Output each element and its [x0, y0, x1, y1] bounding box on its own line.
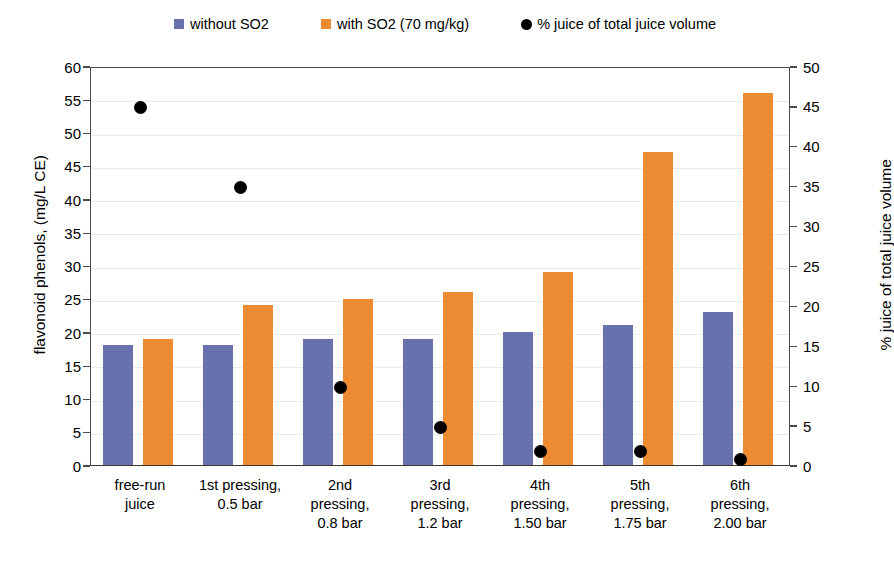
bar-without-so2[interactable] — [203, 345, 233, 465]
y-axis-left-tick — [83, 199, 90, 200]
y-axis-right-tick — [790, 346, 797, 347]
y-axis-right-tick — [790, 266, 797, 267]
bar-group — [591, 68, 691, 465]
y-axis-left-tick-label: 10 — [64, 392, 81, 407]
legend-item-without-so2[interactable]: without SO2 — [174, 17, 269, 32]
y-axis-right-tick-label: 20 — [803, 299, 820, 314]
y-axis-left-title: flavonoid phenols, (mg/L CE) — [32, 75, 48, 435]
bar-with-so2[interactable] — [343, 299, 373, 465]
bar-with-so2[interactable] — [643, 152, 673, 465]
y-axis-right-tick-label: 50 — [803, 60, 820, 75]
circle-marker-icon — [521, 19, 532, 30]
legend-item-with-so2[interactable]: with SO2 (70 mg/kg) — [321, 17, 469, 32]
y-axis-left-tick — [83, 133, 90, 134]
y-axis-left-tick-label: 5 — [73, 425, 81, 440]
bar-without-so2[interactable] — [703, 312, 733, 465]
y-axis-left-tick — [83, 332, 90, 333]
scatter-point-percent-juice[interactable] — [434, 421, 447, 434]
scatter-point-percent-juice[interactable] — [234, 181, 247, 194]
y-axis-left-tick-label: 0 — [73, 459, 81, 474]
y-axis-left-tick-label: 30 — [64, 259, 81, 274]
scatter-point-percent-juice[interactable] — [334, 381, 347, 394]
y-axis-left-tick — [83, 66, 90, 67]
y-axis-left-tick — [83, 465, 90, 466]
y-axis-right-tick-label: 0 — [803, 459, 811, 474]
scatter-point-percent-juice[interactable] — [134, 101, 147, 114]
y-axis-right-tick-label: 15 — [803, 339, 820, 354]
square-swatch-icon — [321, 19, 331, 29]
y-axis-left-tick-label: 35 — [64, 226, 81, 241]
x-axis-category-label: 2nd pressing, 0.8 bar — [290, 476, 390, 533]
bar-without-so2[interactable] — [103, 345, 133, 465]
y-axis-right-tick — [790, 226, 797, 227]
y-axis-left-tick — [83, 100, 90, 101]
x-axis-category-label: free-run juice — [90, 476, 190, 514]
y-axis-right-tick-label: 5 — [803, 419, 811, 434]
y-axis-right-tick-label: 25 — [803, 259, 820, 274]
bar-group — [91, 68, 191, 465]
y-axis-left-tick-label: 40 — [64, 193, 81, 208]
bar-without-so2[interactable] — [603, 325, 633, 465]
x-axis-category-label: 4th pressing, 1.50 bar — [490, 476, 590, 533]
y-axis-right-tick — [790, 306, 797, 307]
square-swatch-icon — [174, 19, 184, 29]
bar-without-so2[interactable] — [503, 332, 533, 465]
bar-group — [191, 68, 291, 465]
y-axis-right-tick — [790, 465, 797, 466]
scatter-point-percent-juice[interactable] — [734, 453, 747, 466]
y-axis-right-tick — [790, 146, 797, 147]
y-axis-left-tick — [83, 399, 90, 400]
bar-with-so2[interactable] — [243, 305, 273, 465]
bar-group — [691, 68, 791, 465]
bar-group — [291, 68, 391, 465]
bar-without-so2[interactable] — [403, 339, 433, 465]
y-axis-left-tick — [83, 432, 90, 433]
bar-group — [391, 68, 491, 465]
legend-item-percent-juice[interactable]: % juice of total juice volume — [521, 17, 716, 32]
scatter-point-percent-juice[interactable] — [634, 445, 647, 458]
y-axis-left-tick-label: 60 — [64, 60, 81, 75]
y-axis-right-tick-label: 40 — [803, 139, 820, 154]
plot-area — [90, 67, 790, 466]
legend-label: with SO2 (70 mg/kg) — [337, 17, 469, 32]
legend-label: without SO2 — [190, 17, 269, 32]
x-axis-category-labels: free-run juice1st pressing, 0.5 bar2nd p… — [90, 476, 790, 566]
y-axis-right-tick-label: 10 — [803, 379, 820, 394]
y-axis-right-tick — [790, 425, 797, 426]
y-axis-right-tick — [790, 186, 797, 187]
x-axis-category-label: 6th pressing, 2.00 bar — [690, 476, 790, 533]
y-axis-left-tick — [83, 366, 90, 367]
y-axis-right-tick — [790, 66, 797, 67]
y-axis-left-tick-label: 55 — [64, 93, 81, 108]
y-axis-left-tick-label: 45 — [64, 159, 81, 174]
chart-legend: without SO2 with SO2 (70 mg/kg) % juice … — [0, 11, 890, 37]
y-axis-right-tick — [790, 386, 797, 387]
y-axis-left-tick — [83, 166, 90, 167]
y-axis-left-tick-label: 15 — [64, 359, 81, 374]
y-axis-right-title: % juice of total juice volume — [878, 75, 894, 435]
bar-with-so2[interactable] — [143, 339, 173, 465]
bar-without-so2[interactable] — [303, 339, 333, 465]
y-axis-right-tick-label: 45 — [803, 99, 820, 114]
bar-with-so2[interactable] — [443, 292, 473, 465]
y-axis-left-tick — [83, 299, 90, 300]
bar-group — [491, 68, 591, 465]
scatter-point-percent-juice[interactable] — [534, 445, 547, 458]
bar-with-so2[interactable] — [743, 93, 773, 465]
bar-with-so2[interactable] — [543, 272, 573, 465]
y-axis-left-tick — [83, 233, 90, 234]
y-axis-left-tick — [83, 266, 90, 267]
y-axis-left-tick-label: 50 — [64, 126, 81, 141]
y-axis-right-tick — [790, 106, 797, 107]
y-axis-right-tick-label: 35 — [803, 179, 820, 194]
x-axis-category-label: 5th pressing, 1.75 bar — [590, 476, 690, 533]
x-axis-category-label: 1st pressing, 0.5 bar — [190, 476, 290, 514]
y-axis-left-tick-label: 20 — [64, 326, 81, 341]
y-axis-right-tick-label: 30 — [803, 219, 820, 234]
legend-label: % juice of total juice volume — [537, 17, 716, 32]
x-axis-category-label: 3rd pressing, 1.2 bar — [390, 476, 490, 533]
y-axis-left-tick-label: 25 — [64, 292, 81, 307]
